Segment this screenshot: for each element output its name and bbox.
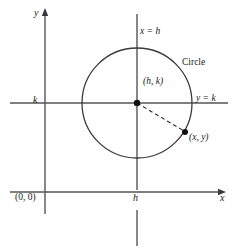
y-axis-label: y <box>34 8 38 18</box>
circle-point-label: (x, y) <box>189 133 209 143</box>
radius-dashed-segment <box>137 103 184 131</box>
h-tick-label: h <box>133 193 138 203</box>
circle-point-dot <box>182 129 188 135</box>
y-axis <box>42 8 48 214</box>
circle-label: Circle <box>182 58 205 68</box>
horizontal-line-equation-label: y = k <box>196 94 216 104</box>
figure-canvas <box>0 0 235 252</box>
k-tick-label: k <box>33 95 37 105</box>
y-axis-arrowhead <box>42 8 48 16</box>
origin-label: (0, 0) <box>15 193 36 203</box>
x-axis <box>10 189 226 195</box>
x-axis-label: x <box>220 193 224 203</box>
center-point-dot <box>134 100 140 106</box>
center-point-label: (h, k) <box>143 77 163 87</box>
vertical-line-equation-label: x = h <box>140 27 160 37</box>
circle-geometry-figure: y x k h (0, 0) x = h y = k Circle (h, k)… <box>0 0 235 252</box>
